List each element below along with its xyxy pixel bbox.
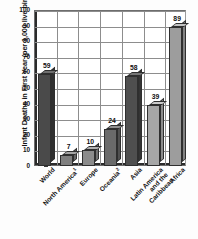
y-tick-label: 100 (14, 7, 30, 13)
bar-europe: 10 (82, 10, 99, 166)
y-tick-label: 60 (14, 69, 30, 75)
footnote-marker: 2 (115, 167, 120, 172)
y-tick-label: 40 (14, 101, 30, 107)
bar-africa: 89 (169, 10, 186, 166)
y-axis-tick-labels: 1009080706050403020100 (14, 10, 30, 166)
bar-value-label: 89 (164, 15, 190, 22)
bar-value-label: 24 (99, 117, 125, 124)
bar-value-label: 10 (77, 138, 103, 145)
bar-front-face (169, 27, 182, 166)
y-tick-label: 30 (14, 116, 30, 122)
y-tick-label: 80 (14, 38, 30, 44)
bar-side-face (182, 20, 186, 162)
bar-series: 5971024583989 (34, 10, 186, 166)
bar-top-face (127, 72, 145, 76)
bar-front-face (60, 155, 73, 166)
infant-mortality-bar-chart: Infant Deaths in First Year (per 1,000 l… (0, 0, 198, 239)
bar-asia: 58 (125, 10, 142, 166)
bar-front-face (38, 74, 51, 166)
x-axis-category-labels: WorldNorth America1EuropeOceania2AsiaLat… (34, 166, 186, 239)
bar-top-face (149, 101, 167, 105)
y-tick-label: 0 (14, 163, 30, 169)
bar-front-face (82, 150, 95, 166)
bar-front-face (125, 76, 138, 166)
bar-top-face (62, 151, 80, 155)
bar-latin-america-and-the-caribbean: 39 (147, 10, 164, 166)
bar-side-face (138, 68, 142, 162)
y-tick-label: 90 (14, 23, 30, 29)
bar-value-label: 58 (121, 64, 147, 71)
bar-oceania: 24 (104, 10, 121, 166)
bar-top-face (40, 70, 58, 74)
bar-north-america: 7 (60, 10, 77, 166)
bar-value-label: 59 (34, 62, 60, 69)
bar-top-face (84, 146, 102, 150)
y-tick-label: 70 (14, 54, 30, 60)
bar-top-face (171, 23, 189, 27)
bar-front-face (147, 105, 160, 166)
bar-side-face (160, 98, 164, 162)
bar-front-face (104, 129, 117, 166)
footnote-marker: 1 (72, 167, 77, 172)
bar-world: 59 (38, 10, 55, 166)
y-tick-label: 20 (14, 132, 30, 138)
bar-value-label: 39 (142, 93, 168, 100)
y-tick-label: 10 (14, 147, 30, 153)
y-tick-label: 50 (14, 85, 30, 91)
